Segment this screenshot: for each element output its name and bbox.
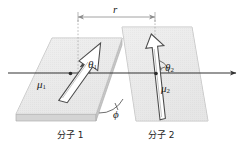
caption-molecule-1: 分子 1: [57, 131, 84, 140]
plane-1-slab-front: [16, 114, 96, 121]
label-angle-theta2: θ2: [165, 62, 174, 74]
mu1-origin-dot: [69, 72, 73, 76]
plane-molecule-1: [16, 38, 122, 121]
label-angle-phi: ϕ: [113, 109, 119, 120]
label-theta2-subscript: 2: [170, 66, 173, 73]
dipole-interaction-diagram: r μ1 μ2 θ1 θ2 ϕ 分子 1 分子 2: [0, 0, 246, 151]
caption-molecule-2: 分子 2: [148, 131, 175, 140]
label-mu2-subscript: 2: [167, 87, 170, 94]
plane-1-texture: [16, 38, 122, 114]
diagram-canvas: [0, 0, 246, 151]
mu2-origin-dot: [154, 72, 158, 76]
label-mu1-subscript: 1: [43, 83, 46, 90]
label-distance-r: r: [113, 4, 117, 15]
label-dipole-mu1: μ1: [37, 79, 46, 91]
label-angle-theta1: θ1: [88, 59, 97, 71]
label-theta1-subscript: 1: [93, 63, 96, 70]
label-dipole-mu2: μ2: [161, 83, 170, 95]
